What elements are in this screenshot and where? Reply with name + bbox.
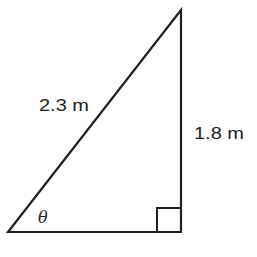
- right-triangle: [8, 10, 181, 232]
- triangle-diagram: 2.3 m 1.8 m θ: [0, 0, 257, 257]
- right-angle-marker: [157, 208, 181, 232]
- opposite-side-label: 1.8 m: [194, 124, 244, 143]
- angle-theta-label: θ: [38, 208, 48, 227]
- hypotenuse-label: 2.3 m: [39, 96, 89, 115]
